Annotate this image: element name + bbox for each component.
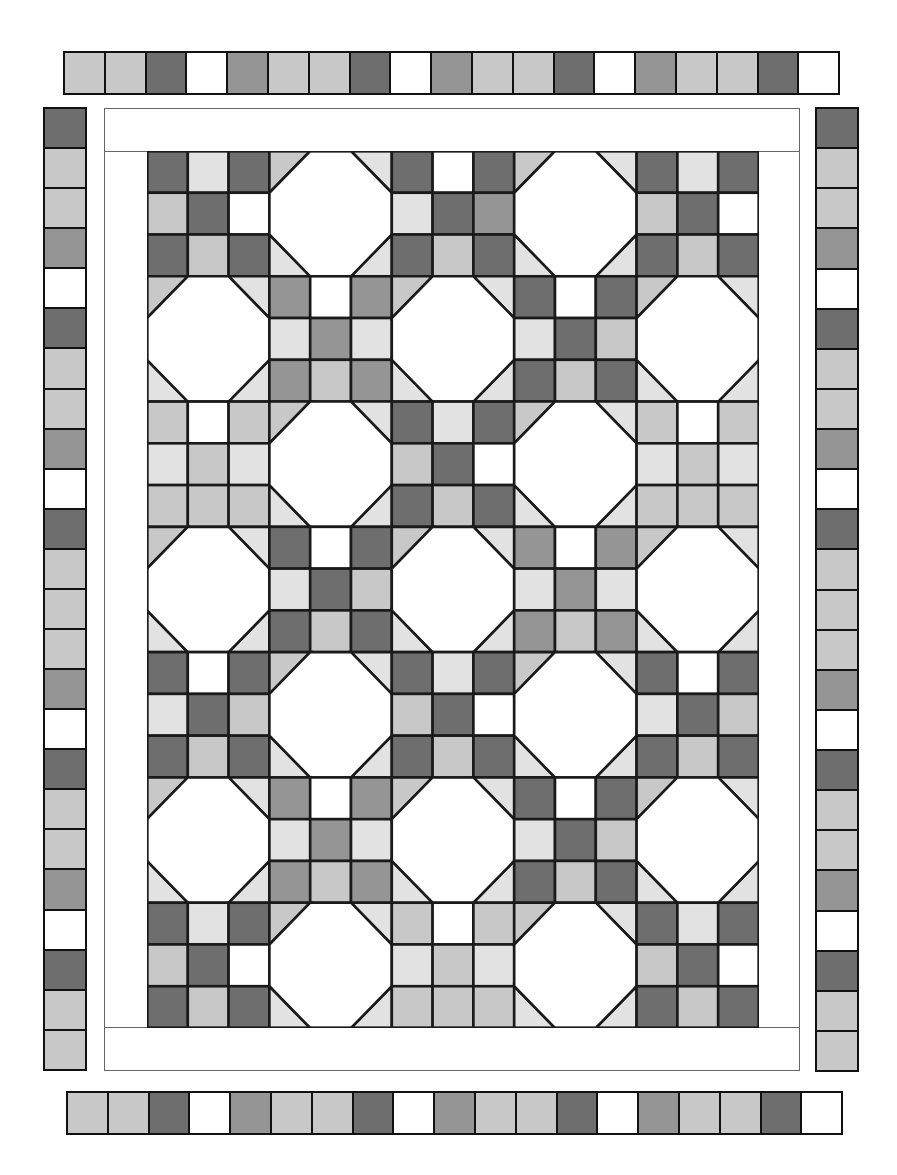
ninepatch-square	[718, 903, 759, 945]
ninepatch-square	[269, 777, 310, 819]
ninepatch-square	[310, 610, 351, 652]
ninepatch-square	[433, 694, 474, 736]
ninepatch-square	[310, 527, 351, 569]
top-pieced-border	[63, 51, 840, 95]
bottom-border-square	[680, 1093, 719, 1133]
top-border-square	[595, 53, 634, 93]
ninepatch-square	[637, 443, 678, 485]
ninepatch-square	[473, 986, 514, 1028]
left-border-square	[45, 830, 85, 868]
right-border-square	[817, 1032, 857, 1070]
ninepatch-square	[718, 694, 759, 736]
ninepatch-square	[473, 944, 514, 986]
ninepatch-square	[351, 527, 392, 569]
ninepatch-square	[147, 485, 188, 527]
ninepatch-square	[269, 276, 310, 318]
ninepatch-square	[433, 402, 474, 444]
top-border-square	[799, 53, 838, 93]
ninepatch-square	[677, 903, 718, 945]
ninepatch-square	[188, 193, 229, 235]
ninepatch-square	[637, 485, 678, 527]
ninepatch-square	[188, 402, 229, 444]
bottom-border-square	[802, 1093, 841, 1133]
ninepatch-square	[188, 652, 229, 694]
ninepatch-square	[147, 736, 188, 778]
top-border-square	[228, 53, 267, 93]
right-border-square	[817, 430, 857, 468]
left-pieced-border	[43, 107, 87, 1071]
ninepatch-square	[555, 777, 596, 819]
ninepatch-square	[473, 694, 514, 736]
ninepatch-square	[718, 193, 759, 235]
ninepatch-square	[555, 527, 596, 569]
ninepatch-square	[555, 569, 596, 611]
left-border-square	[45, 470, 85, 508]
ninepatch-square	[596, 360, 637, 402]
ninepatch-square	[555, 360, 596, 402]
ninepatch-square	[310, 861, 351, 903]
ninepatch-square	[433, 193, 474, 235]
left-border-square	[45, 911, 85, 949]
right-border-square	[817, 270, 857, 308]
right-border-square	[817, 510, 857, 548]
bottom-border-square	[558, 1093, 597, 1133]
left-border-square	[45, 189, 85, 227]
ninepatch-square	[351, 610, 392, 652]
bottom-pieced-border	[66, 1091, 843, 1135]
ninepatch-square	[269, 819, 310, 861]
right-border-square	[817, 952, 857, 990]
ninepatch-square	[596, 819, 637, 861]
ninepatch-square	[229, 652, 270, 694]
ninepatch-square	[229, 443, 270, 485]
ninepatch-square	[433, 986, 474, 1028]
ninepatch-square	[147, 986, 188, 1028]
ninepatch-square	[188, 443, 229, 485]
ninepatch-square	[677, 986, 718, 1028]
ninepatch-square	[433, 944, 474, 986]
ninepatch-square	[269, 360, 310, 402]
ninepatch-square	[229, 736, 270, 778]
top-border-square	[65, 53, 104, 93]
ninepatch-square	[188, 944, 229, 986]
top-border-square	[636, 53, 675, 93]
right-border-square	[817, 109, 857, 147]
ninepatch-square	[677, 652, 718, 694]
ninepatch-square	[596, 318, 637, 360]
ninepatch-square	[677, 151, 718, 193]
ninepatch-square	[351, 861, 392, 903]
ninepatch-square	[596, 569, 637, 611]
right-border-square	[817, 871, 857, 909]
ninepatch-square	[514, 527, 555, 569]
top-border-square	[269, 53, 308, 93]
ninepatch-square	[310, 360, 351, 402]
ninepatch-square	[188, 986, 229, 1028]
ninepatch-square	[555, 610, 596, 652]
ninepatch-square	[596, 276, 637, 318]
ninepatch-square	[718, 443, 759, 485]
ninepatch-square	[269, 610, 310, 652]
bottom-border-square	[272, 1093, 311, 1133]
top-border-square	[759, 53, 798, 93]
ninepatch-square	[473, 193, 514, 235]
ninepatch-square	[637, 151, 678, 193]
ninepatch-square	[229, 694, 270, 736]
bottom-border-square	[598, 1093, 637, 1133]
right-border-square	[817, 992, 857, 1030]
ninepatch-square	[555, 318, 596, 360]
ninepatch-square	[596, 861, 637, 903]
quilt-center-grid	[147, 151, 759, 1028]
top-border-square	[432, 53, 471, 93]
ninepatch-square	[637, 694, 678, 736]
bottom-border-square	[190, 1093, 229, 1133]
ninepatch-square	[555, 819, 596, 861]
left-border-square	[45, 309, 85, 347]
bottom-border-square	[476, 1093, 515, 1133]
ninepatch-square	[677, 944, 718, 986]
ninepatch-square	[677, 736, 718, 778]
ninepatch-square	[351, 318, 392, 360]
ninepatch-square	[351, 569, 392, 611]
ninepatch-square	[310, 569, 351, 611]
ninepatch-square	[229, 402, 270, 444]
ninepatch-square	[677, 694, 718, 736]
ninepatch-square	[433, 736, 474, 778]
